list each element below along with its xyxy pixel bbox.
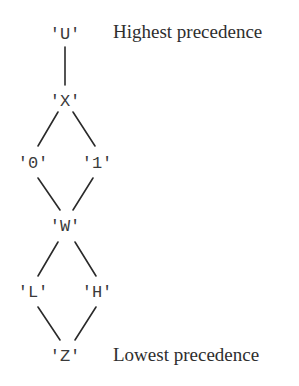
- lowest-precedence-label: Lowest precedence: [113, 344, 259, 365]
- node-Z: 'Z': [50, 347, 81, 366]
- node-X: 'X': [50, 92, 81, 111]
- node-U: 'U': [50, 25, 81, 44]
- node-L: 'L': [18, 283, 49, 302]
- node-W: 'W': [50, 217, 81, 236]
- edge-X-0: [38, 112, 58, 146]
- node-0: '0': [18, 154, 49, 173]
- node-1: '1': [82, 154, 113, 173]
- highest-precedence-label: Highest precedence: [113, 21, 262, 42]
- edge-0-W: [38, 178, 60, 210]
- edge-X-1: [73, 112, 95, 146]
- edge-H-Z: [75, 307, 96, 340]
- edge-L-Z: [38, 307, 60, 340]
- edge-1-W: [73, 178, 93, 210]
- edge-W-H: [75, 242, 96, 276]
- precedence-lattice-diagram: 'U' 'X' '0' '1' 'W' 'L' 'H' 'Z' Highest …: [0, 0, 299, 386]
- node-H: 'H': [82, 283, 113, 302]
- edge-W-L: [38, 242, 58, 276]
